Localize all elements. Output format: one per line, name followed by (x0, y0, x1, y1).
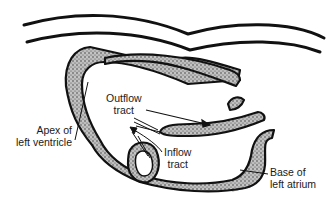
inflow-tract-label: Inflow tract (164, 146, 191, 170)
apex-label-line2: left ventricle (8, 136, 72, 148)
outflow-label-line1: Outflow (106, 92, 142, 104)
heart-diagram: ~~~~~~~~~ Outflow tract Inflow tract Ape… (0, 0, 336, 210)
outflow-tract-label: Outflow tract (106, 92, 142, 116)
apex-label: Apex of left ventricle (8, 124, 72, 148)
base-label: Base of left atrium (270, 166, 316, 190)
base-label-line2: left atrium (270, 178, 316, 190)
apex-label-line1: Apex of (8, 124, 72, 136)
small-chamber (135, 151, 152, 176)
outflow-label-line2: tract (106, 104, 142, 116)
inflow-label-line2: tract (164, 158, 191, 170)
chest-wall-lines (24, 15, 324, 52)
inflow-label-line1: Inflow (164, 146, 191, 158)
base-label-line1: Base of (270, 166, 316, 178)
